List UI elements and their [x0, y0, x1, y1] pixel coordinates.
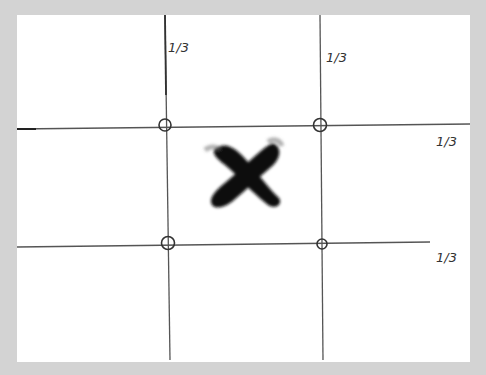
one-third-label: 1/3 [436, 134, 457, 149]
one-third-label: 1/3 [436, 250, 457, 265]
rule-of-thirds-diagram: 1/31/31/31/3 [0, 0, 486, 375]
one-third-label: 1/3 [168, 40, 189, 55]
one-third-label: 1/3 [326, 50, 347, 65]
